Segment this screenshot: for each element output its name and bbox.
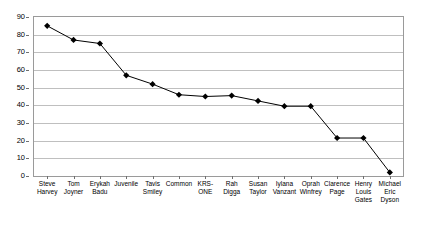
x-tick-mark [179,176,180,179]
data-point-marker [229,93,235,99]
data-point-marker [202,93,208,99]
y-tick-mark [26,35,29,36]
x-axis: Steve HarveyTom JoynerErykah BaduJuvenil… [33,180,404,228]
data-series [34,17,403,176]
x-tick-mark [153,176,154,179]
y-tick-label: 60 [17,66,25,74]
x-tick-mark [363,176,364,179]
y-tick-mark [26,105,29,106]
x-tick-mark [126,176,127,179]
y-tick-label: 20 [17,137,25,145]
y-tick-label: 10 [17,155,25,163]
y-tick-mark [26,158,29,159]
data-point-marker [44,23,50,29]
data-point-marker [70,37,76,43]
x-tick-mark [390,176,391,179]
y-tick-mark [26,123,29,124]
x-tick-mark [337,176,338,179]
y-tick-mark [26,176,29,177]
series-line [47,26,390,173]
y-tick-label: 90 [17,13,25,21]
y-tick-mark [26,88,29,89]
y-axis: 0102030405060708090 [0,16,29,177]
data-point-marker [150,81,156,87]
x-tick-mark [284,176,285,179]
y-tick-label: 80 [17,31,25,39]
x-tick-mark [47,176,48,179]
y-tick-mark [26,70,29,71]
y-tick-mark [26,17,29,18]
x-tick-mark [258,176,259,179]
x-tick-mark [205,176,206,179]
y-tick-label: 30 [17,119,25,127]
line-chart: 0102030405060708090 Steve HarveyTom Joyn… [0,0,427,228]
y-tick-mark [26,141,29,142]
y-tick-mark [26,52,29,53]
data-point-marker [255,98,261,104]
x-tick-mark [311,176,312,179]
y-tick-label: 0 [21,172,25,180]
y-tick-label: 70 [17,49,25,57]
data-point-marker [281,103,287,109]
y-tick-label: 50 [17,84,25,92]
data-point-marker [176,92,182,98]
x-tick-label: Michael Eric Dyson [370,180,410,205]
x-tick-mark [232,176,233,179]
y-tick-label: 40 [17,102,25,110]
x-tick-mark [74,176,75,179]
plot-area [33,16,404,177]
x-tick-mark [100,176,101,179]
